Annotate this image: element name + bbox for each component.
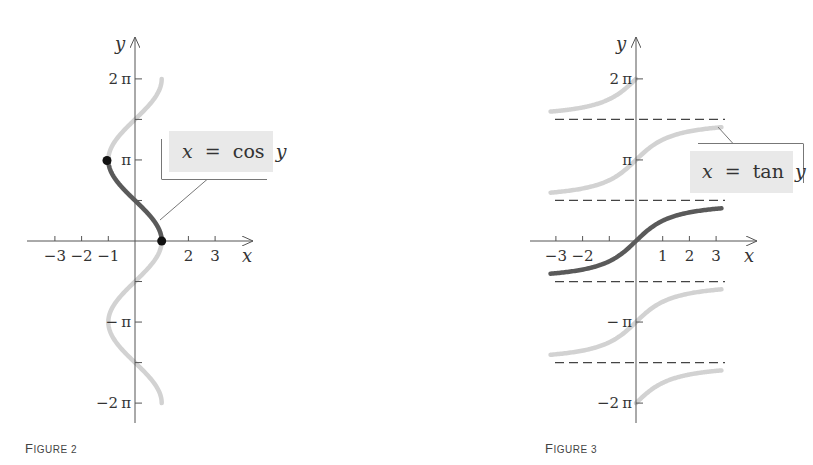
x-tick-label: −2 <box>71 247 93 265</box>
equation-label: x = tan y <box>690 127 806 193</box>
figure-3-caption: FIGURE 3 <box>545 441 597 456</box>
y-axis-label: y <box>114 33 126 54</box>
y-axis-label: y <box>615 33 627 54</box>
y-tick-label: π <box>118 151 131 169</box>
y-tick-label: − π <box>106 313 132 331</box>
x-tick-label: −3 <box>545 247 567 265</box>
figure-2-caption: FIGURE 2 <box>25 441 77 456</box>
endpoint-dot <box>103 156 112 165</box>
x-tick-label: 2 <box>184 247 194 265</box>
eq-lhs: x <box>182 140 193 162</box>
x-tick-label: 1 <box>658 247 668 265</box>
eq-sign: = <box>205 140 221 162</box>
eq-var: y <box>794 160 806 182</box>
figure-3-plot: y x −3−2123−2 π− π π2 π x = tan y <box>530 33 806 423</box>
eq-func: cos <box>233 140 265 162</box>
y-tick-label: −2 π <box>96 394 131 412</box>
y-tick-label: − π <box>607 313 633 331</box>
eq-func: tan <box>753 160 784 182</box>
endpoint-dot <box>157 237 166 246</box>
eq-var: y <box>275 140 287 162</box>
figure-2-plot: y x −3−2−123−2 π− π π2 π x = cos y <box>27 33 287 423</box>
y-tick-label: 2 π <box>109 70 132 88</box>
equation-label: x = cos y <box>160 131 287 220</box>
x-tick-label: 3 <box>711 247 721 265</box>
y-tick-label: π <box>619 151 632 169</box>
x-axis-label: x <box>744 245 754 266</box>
y-tick-label: 2 π <box>610 70 633 88</box>
x-tick-label: 3 <box>210 247 220 265</box>
x-tick-label: −2 <box>572 247 594 265</box>
figures-canvas: y x −3−2−123−2 π− π π2 π x = cos y y x −… <box>0 0 813 465</box>
x-tick-label: 2 <box>685 247 695 265</box>
x-axis-label: x <box>242 245 252 266</box>
tan-curve-faded <box>636 370 721 403</box>
eq-lhs: x <box>702 160 713 182</box>
y-tick-label: −2 π <box>597 394 632 412</box>
x-tick-label: −3 <box>44 247 66 265</box>
x-tick-label: −1 <box>97 247 119 265</box>
eq-sign: = <box>725 160 741 182</box>
